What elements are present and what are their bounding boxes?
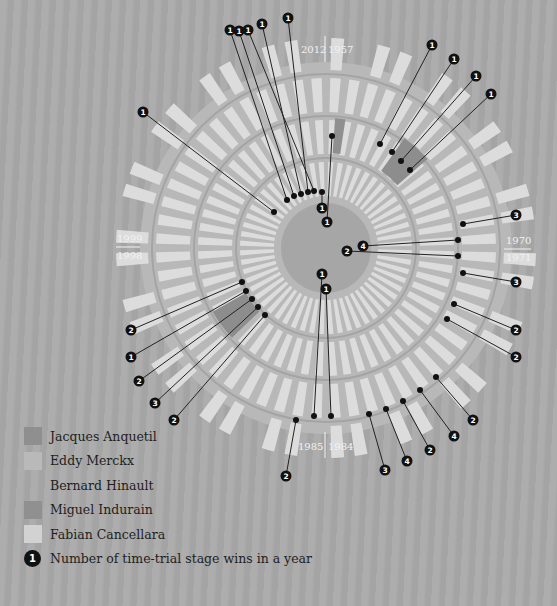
callout-dot bbox=[328, 413, 334, 419]
callout-dot bbox=[249, 296, 255, 302]
callout-dot bbox=[383, 406, 389, 412]
count-value: 2 bbox=[344, 247, 349, 256]
callout-dot bbox=[298, 191, 304, 197]
legend-swatch bbox=[24, 476, 42, 494]
count-value: 2 bbox=[513, 326, 518, 335]
legend-label: Jacques Anquetil bbox=[50, 429, 157, 444]
count-value: 3 bbox=[152, 399, 157, 408]
year-label-1999: 1999 bbox=[117, 233, 142, 244]
year-label-1957: 1957 bbox=[328, 44, 353, 55]
count-value: 4 bbox=[451, 432, 456, 441]
count-value: 1 bbox=[488, 90, 493, 99]
count-value: 1 bbox=[429, 41, 434, 50]
count-value: 1 bbox=[324, 218, 329, 227]
callout-dot bbox=[417, 387, 423, 393]
bar-segment bbox=[165, 103, 197, 133]
year-label-1998: 1998 bbox=[117, 250, 142, 261]
legend-item-cancellara: Fabian Cancellara bbox=[24, 522, 312, 547]
callout-dot bbox=[243, 288, 249, 294]
count-value: 2 bbox=[513, 353, 518, 362]
count-value: 1 bbox=[245, 26, 250, 35]
callout-dot bbox=[444, 316, 450, 322]
callout-dot bbox=[398, 158, 404, 164]
legend-item-merckx: Eddy Merckx bbox=[24, 449, 312, 474]
center-hub bbox=[281, 203, 371, 293]
bar-segment bbox=[165, 362, 197, 392]
callout-dot bbox=[291, 193, 297, 199]
count-value: 4 bbox=[360, 242, 365, 251]
callout-dot bbox=[311, 413, 317, 419]
count-value: 1 bbox=[319, 204, 324, 213]
legend-label: Bernard Hinault bbox=[50, 478, 154, 493]
count-value: 1 bbox=[128, 353, 133, 362]
legend: Jacques Anquetil Eddy Merckx Bernard Hin… bbox=[24, 424, 312, 571]
year-label-1984: 1984 bbox=[328, 441, 353, 452]
count-value: 1 bbox=[473, 72, 478, 81]
count-value: 2 bbox=[128, 326, 133, 335]
bar-segment bbox=[389, 410, 412, 444]
callout-dot bbox=[366, 411, 372, 417]
callout-dot bbox=[460, 270, 466, 276]
year-label-1970: 1970 bbox=[506, 235, 531, 246]
callout-dot bbox=[407, 167, 413, 173]
count-value: 1 bbox=[319, 270, 324, 279]
count-value: 2 bbox=[470, 416, 475, 425]
count-value: 1 bbox=[140, 108, 145, 117]
callout-dot bbox=[451, 301, 457, 307]
count-value: 4 bbox=[404, 457, 409, 466]
legend-swatch bbox=[24, 525, 42, 543]
callout-dot bbox=[284, 197, 290, 203]
legend-label: Miguel Indurain bbox=[50, 502, 153, 517]
callout-dot bbox=[433, 374, 439, 380]
callout-dot bbox=[255, 304, 261, 310]
count-value: 3 bbox=[513, 278, 518, 287]
callout-dot bbox=[305, 189, 311, 195]
count-value: 1 bbox=[236, 27, 241, 36]
legend-label: Eddy Merckx bbox=[50, 453, 134, 468]
legend-item-indurain: Miguel Indurain bbox=[24, 498, 312, 523]
callout-dot bbox=[239, 279, 245, 285]
callout-dot bbox=[329, 133, 335, 139]
legend-label: Number of time-trial stage wins in a yea… bbox=[50, 551, 312, 566]
callout-dot bbox=[311, 188, 317, 194]
bar-segment bbox=[130, 162, 164, 185]
bar-segment bbox=[455, 362, 487, 392]
callout-dot bbox=[377, 141, 383, 147]
count-value: 2 bbox=[136, 377, 141, 386]
callout-dot bbox=[455, 237, 461, 243]
count-value: 3 bbox=[382, 466, 387, 475]
callout-dot bbox=[262, 312, 268, 318]
callout-dot bbox=[389, 149, 395, 155]
legend-swatch bbox=[24, 501, 42, 519]
count-value: 1 bbox=[451, 55, 456, 64]
count-value: 1 bbox=[259, 20, 264, 29]
legend-label: Fabian Cancellara bbox=[50, 527, 165, 542]
callout-dot bbox=[271, 209, 277, 215]
count-value: 1 bbox=[227, 26, 232, 35]
legend-item-hinault: Bernard Hinault bbox=[24, 473, 312, 498]
count-value: 1 bbox=[285, 14, 290, 23]
count-value: 1 bbox=[323, 285, 328, 294]
count-value: 3 bbox=[513, 211, 518, 220]
legend-swatch bbox=[24, 427, 42, 445]
legend-swatch bbox=[24, 452, 42, 470]
year-label-2012: 2012 bbox=[301, 44, 326, 55]
bar-segment bbox=[440, 377, 470, 409]
callout-dot bbox=[319, 189, 325, 195]
count-value: 2 bbox=[427, 446, 432, 455]
count-badge-icon: 1 bbox=[24, 550, 41, 567]
year-label-1971: 1971 bbox=[506, 252, 531, 263]
legend-item-marker: 1 Number of time-trial stage wins in a y… bbox=[24, 547, 312, 572]
callout-dot bbox=[460, 221, 466, 227]
bar-segment bbox=[389, 52, 412, 86]
bar-segment bbox=[440, 87, 470, 119]
legend-item-anquetil: Jacques Anquetil bbox=[24, 424, 312, 449]
callout-dot bbox=[293, 417, 299, 423]
callout-dot bbox=[455, 253, 461, 259]
callout-dot bbox=[400, 398, 406, 404]
